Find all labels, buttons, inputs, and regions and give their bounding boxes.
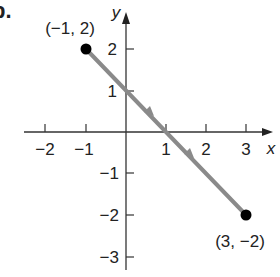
x-axis: −2 −1 1 2 3 x [24, 124, 276, 159]
point-end [241, 210, 252, 221]
x-tick-label: 3 [241, 140, 250, 159]
point-start-label: (−1, 2) [45, 19, 95, 38]
coordinate-plot: b. −2 −1 1 2 3 x 2 1 −1 −2 −3 y [0, 0, 280, 277]
x-axis-label: x [266, 139, 276, 158]
x-tick-label: −1 [74, 140, 93, 159]
x-tick-label: 2 [201, 140, 210, 159]
point-end-label: (3, −2) [215, 232, 265, 251]
y-tick-label: 1 [108, 82, 117, 101]
y-tick-label: 2 [108, 40, 117, 59]
x-axis-arrow-icon [262, 128, 273, 136]
x-tick-label: −2 [35, 140, 54, 159]
point-start [81, 44, 92, 55]
y-tick-label: −3 [100, 248, 119, 267]
y-axis: 2 1 −1 −2 −3 y [100, 3, 134, 270]
part-label: b. [0, 0, 12, 23]
x-tick-label: 1 [161, 140, 170, 159]
y-axis-arrow-icon [122, 12, 130, 24]
y-axis-label: y [111, 3, 122, 22]
y-tick-label: −1 [100, 164, 119, 183]
y-tick-label: −2 [100, 206, 119, 225]
